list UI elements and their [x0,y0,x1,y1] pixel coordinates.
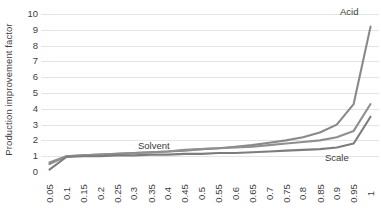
x-axis-tick-text: 0.7 [264,187,275,200]
y-axis-tick: 8 [14,41,38,51]
x-axis-tick-text: 0.2 [95,187,106,200]
y-axis-tick: 4 [14,104,38,114]
x-axis-tick: 0.4 [161,174,175,218]
x-axis-tick: 0.2 [93,174,107,218]
y-axis-tick: 5 [14,88,38,98]
x-axis-tick: 0.35 [144,174,158,218]
y-axis-tick: 10 [14,9,38,19]
x-axis-tick-text: 0.1 [61,187,72,200]
x-axis-tick: 0.9 [330,174,344,218]
x-axis-tick: 0.95 [347,174,361,218]
y-axis-title-text: Production improvement factor [3,23,14,155]
x-axis-tick: 0.6 [228,174,242,218]
x-axis-tick: 0.85 [313,174,327,218]
x-axis-tick: 1 [364,174,378,218]
x-axis-tick-text: 0.65 [247,184,258,203]
series-lines [41,0,379,172]
y-axis-tick: 9 [14,25,38,35]
x-axis-tick: 0.65 [245,174,259,218]
y-axis-tick-labels: 012345678910 [14,0,38,178]
x-axis-tick: 0.45 [178,174,192,218]
y-axis-tick: 6 [14,72,38,82]
x-axis-tick-text: 0.4 [162,187,173,200]
x-axis-tick-text: 0.35 [145,184,156,203]
x-axis-tick-text: 0.95 [348,184,359,203]
x-axis-tick-text: 0.5 [196,187,207,200]
x-axis-tick-text: 0.15 [78,184,89,203]
x-axis-tick-text: 0.8 [297,187,308,200]
x-axis-tick-text: 0.6 [230,187,241,200]
line-chart: Production improvement factor 0123456789… [0,0,381,218]
x-axis-tick: 0.15 [76,174,90,218]
x-axis-tick: 0.7 [262,174,276,218]
x-axis-tick-text: 0.85 [314,184,325,203]
y-axis-tick: 1 [14,151,38,161]
x-axis-tick: 0.5 [195,174,209,218]
x-axis-tick: 0.55 [211,174,225,218]
x-axis-tick-text: 0.3 [128,187,139,200]
y-axis-tick: 2 [14,136,38,146]
plot-area [41,0,379,172]
y-axis-tick: 0 [14,167,38,177]
x-axis-tick-labels: 0.050.10.150.20.250.30.350.40.450.50.550… [41,174,379,218]
x-axis-tick: 0.1 [59,174,73,218]
x-axis-tick-text: 1 [365,191,376,196]
series-label-acid: Acid [340,6,358,17]
x-axis-tick-text: 0.05 [44,184,55,203]
x-axis-tick: 0.8 [296,174,310,218]
series-label-scale: Scale [325,152,349,163]
series-label-solvent: Solvent [138,140,170,151]
x-axis-tick-text: 0.45 [179,184,190,203]
series-line-acid [49,27,370,164]
x-axis-tick-text: 0.75 [281,184,292,203]
y-axis-tick: 7 [14,57,38,67]
y-axis-tick: 3 [14,120,38,130]
x-axis-tick-text: 0.25 [112,184,123,203]
series-line-scale [49,117,370,170]
x-axis-tick: 0.25 [110,174,124,218]
x-axis-tick: 0.75 [279,174,293,218]
x-axis-tick-text: 0.9 [331,187,342,200]
x-axis-tick: 0.05 [42,174,56,218]
x-axis-tick: 0.3 [127,174,141,218]
x-axis-tick-text: 0.55 [213,184,224,203]
